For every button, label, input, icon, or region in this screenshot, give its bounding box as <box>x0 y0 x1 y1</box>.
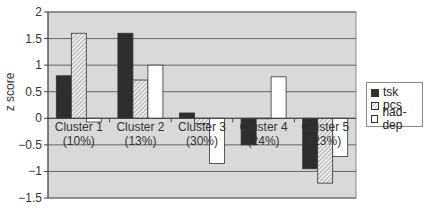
solid-swatch-icon <box>371 89 379 97</box>
y-tick-label: 1.5 <box>25 32 42 46</box>
category-label: Cluster 2 <box>116 120 164 134</box>
bar-had-dep <box>148 65 163 118</box>
bar-had-dep <box>271 77 286 118</box>
y-tick-label: −0.5 <box>18 138 42 152</box>
bar-tsk <box>118 33 133 118</box>
category-label: (24%) <box>248 134 280 148</box>
legend-label: had-dep <box>382 106 422 132</box>
bar-pcs <box>133 80 148 118</box>
y-tick-label: −1 <box>28 164 42 178</box>
y-tick-label: 0 <box>35 111 42 125</box>
bar-pcs <box>71 33 86 118</box>
y-axis: 21.510.50−0.5−1−1.5 <box>18 5 48 205</box>
bar-tsk <box>56 76 71 119</box>
category-label: Cluster 4 <box>240 120 288 134</box>
legend: tsk pcs had-dep <box>366 82 423 127</box>
category-label: Cluster 5 <box>301 120 349 134</box>
category-label: Cluster 3 <box>178 120 226 134</box>
hatched-swatch-icon <box>371 102 379 110</box>
category-label: (30%) <box>186 134 218 148</box>
y-tick-label: 2 <box>35 5 42 19</box>
category-label: (13%) <box>124 134 156 148</box>
y-tick-label: −1.5 <box>18 191 42 205</box>
white-swatch-icon <box>371 115 378 123</box>
category-label: (10%) <box>63 134 95 148</box>
y-tick-label: 0.5 <box>25 85 42 99</box>
legend-item-had-dep: had-dep <box>371 112 422 125</box>
y-tick-label: 1 <box>35 58 42 72</box>
y-axis-label: z score <box>3 72 17 111</box>
category-label: Cluster 1 <box>55 120 103 134</box>
plot-area <box>48 12 356 198</box>
bar-tsk <box>180 113 195 118</box>
category-label: (23%) <box>309 134 341 148</box>
